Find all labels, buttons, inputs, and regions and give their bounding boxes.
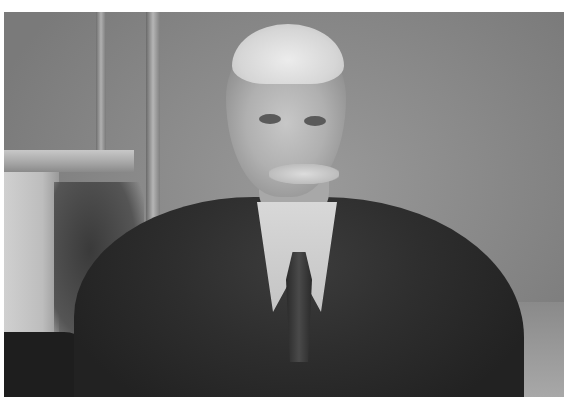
white-hair bbox=[232, 24, 344, 84]
door-frame bbox=[146, 12, 160, 222]
right-eye bbox=[304, 116, 326, 126]
portrait-photo bbox=[4, 12, 564, 397]
left-eye bbox=[259, 114, 281, 124]
fireplace-mantel bbox=[4, 150, 134, 172]
wall-panel-frame bbox=[96, 12, 106, 152]
mustache bbox=[269, 164, 339, 184]
necktie bbox=[286, 252, 312, 362]
